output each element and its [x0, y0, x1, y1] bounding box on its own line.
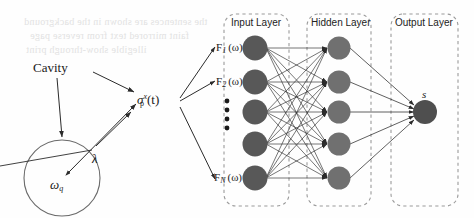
- hidden-output-edges: [350, 48, 414, 178]
- cavity-to-circle-arrow: [57, 78, 62, 137]
- output-node-label: s: [422, 89, 426, 100]
- input-node-3: [243, 100, 268, 125]
- neural-network-figure: the sentences are shown in the backgroun…: [0, 0, 474, 218]
- figure-vector-layer: [0, 0, 474, 218]
- hidden-node-4: [328, 133, 351, 156]
- hidden-node-3: [328, 101, 351, 124]
- f1-subscript: 1: [222, 46, 226, 55]
- coupling-lambda-label: λ: [92, 152, 98, 165]
- output-node: [413, 100, 437, 124]
- vertical-ellipsis-dots: [225, 99, 230, 131]
- qubit-subscript: q: [59, 184, 63, 193]
- cavity-to-sigma-arrow: [93, 72, 134, 92]
- fn-subscript: N: [220, 176, 225, 185]
- lower-left-tail: [0, 150, 92, 166]
- input-node-5: [243, 166, 268, 191]
- input-node-2: [243, 70, 268, 95]
- hidden-layer-nodes: [328, 37, 351, 190]
- output-layer-box-label: Output Layer: [395, 18, 453, 28]
- input-hidden-edges: [266, 48, 327, 178]
- hidden-node-2: [328, 71, 351, 94]
- hidden-node-5: [328, 167, 351, 190]
- hidden-layer-box-label: Hidden Layer: [311, 18, 370, 28]
- f1-argument: (ω): [228, 41, 243, 53]
- f2-subscript: 2: [222, 80, 226, 89]
- coupling-double-arrow: [69, 104, 136, 172]
- f2-argument: (ω): [228, 75, 243, 87]
- sigma-to-fn-arrow: [180, 107, 215, 179]
- cavity-label: Cavity: [33, 61, 68, 74]
- input-node-n-label: FN(ω): [214, 172, 242, 185]
- qubit-omega: ω: [50, 177, 59, 192]
- sigma-to-f1-arrow: [180, 47, 215, 98]
- input-node-2-label: F2(ω): [216, 76, 243, 89]
- input-node-1: [243, 36, 268, 61]
- hidden-node-1: [328, 37, 351, 60]
- input-node-4: [243, 132, 268, 157]
- sigma-operator-label: σxp(t): [137, 93, 159, 108]
- qubit-frequency-label: ωq: [50, 178, 63, 193]
- input-layer-box-label: Input Layer: [231, 18, 281, 28]
- input-node-1-label: F1(ω): [216, 42, 243, 55]
- sigma-argument: (t): [147, 92, 159, 107]
- fn-argument: (ω): [227, 171, 242, 183]
- lower-left-arrow: [96, 112, 131, 146]
- input-layer-nodes: [243, 36, 268, 191]
- sigma-subscript: p: [140, 99, 144, 108]
